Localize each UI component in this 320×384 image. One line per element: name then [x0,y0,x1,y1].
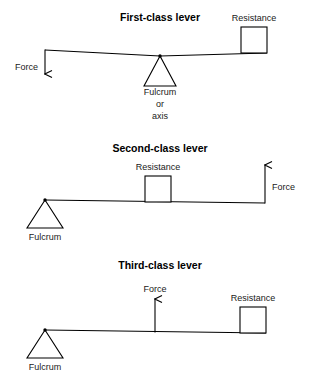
first-class-resistance-label: Resistance [232,13,277,23]
third-class-resistance-label: Resistance [231,293,276,303]
second-class-fulcrum-triangle [27,200,63,228]
first-class-fulcrum-triangle [144,56,176,86]
second-class-resistance-box [145,176,171,202]
first-class-pivot-point [158,54,161,57]
third-class-lever-group: Third-class lever Fulcrum Force Resistan… [27,259,275,372]
first-class-fulcrum-label-line3: axis [152,111,169,121]
second-class-lever-group: Second-class lever Fulcrum Resistance Fo… [27,142,295,242]
first-class-resistance-box [241,27,267,53]
second-class-lever-title: Second-class lever [112,142,207,154]
third-class-fulcrum-label: Fulcrum [29,362,62,372]
second-class-force-label: Force [272,182,295,192]
third-class-force-label: Force [143,284,166,294]
first-class-beam [45,50,267,56]
first-class-lever-group: First-class lever Force Fulcrum or axis … [15,11,276,121]
third-class-fulcrum-triangle [27,330,63,358]
third-class-lever-title: Third-class lever [118,259,201,271]
second-class-pivot-point [43,198,46,201]
third-class-pivot-point [43,328,46,331]
second-class-resistance-label: Resistance [136,162,181,172]
first-class-fulcrum-label-line1: Fulcrum [144,87,177,97]
lever-classes-diagram: First-class lever Force Fulcrum or axis … [0,0,320,384]
second-class-fulcrum-label: Fulcrum [29,232,62,242]
third-class-resistance-box [240,307,266,333]
first-class-lever-title: First-class lever [120,11,200,23]
lever-diagram-canvas: First-class lever Force Fulcrum or axis … [0,0,320,384]
first-class-force-label: Force [15,62,38,72]
first-class-fulcrum-label-line2: or [156,99,164,109]
